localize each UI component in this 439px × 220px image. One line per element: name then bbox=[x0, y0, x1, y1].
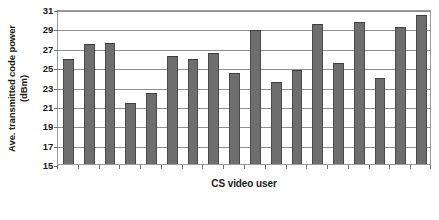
bar bbox=[354, 22, 365, 164]
x-axis-tick-mark bbox=[119, 165, 120, 169]
x-axis-tick-mark bbox=[223, 165, 224, 169]
y-axis-tick-label: 23 bbox=[43, 82, 53, 93]
bar bbox=[250, 30, 261, 164]
bar bbox=[292, 70, 303, 164]
bar bbox=[188, 59, 199, 164]
y-axis-tick-label: 27 bbox=[43, 43, 53, 54]
y-axis-tick-label: 19 bbox=[43, 121, 53, 132]
x-axis-tick-mark bbox=[348, 165, 349, 169]
bar bbox=[84, 44, 95, 164]
y-axis-tick-label: 21 bbox=[43, 101, 53, 112]
x-axis-tick-mark bbox=[140, 165, 141, 169]
x-axis-tick-mark bbox=[244, 165, 245, 169]
x-axis-tick-mark bbox=[430, 165, 431, 169]
x-axis-tick-marks bbox=[57, 165, 431, 170]
y-axis-title: Ave. transmitted code power (dBm) bbox=[0, 0, 34, 176]
y-axis-tick-label: 31 bbox=[43, 5, 53, 16]
bar bbox=[208, 53, 219, 164]
x-axis-tick-mark bbox=[265, 165, 266, 169]
x-axis-tick-mark bbox=[306, 165, 307, 169]
y-axis-tick-label: 29 bbox=[43, 24, 53, 35]
x-axis-tick-mark bbox=[410, 165, 411, 169]
bar bbox=[375, 78, 386, 164]
bar bbox=[167, 56, 178, 164]
bar bbox=[333, 63, 344, 164]
x-axis-title: CS video user bbox=[57, 178, 431, 189]
bar bbox=[312, 24, 323, 164]
x-axis-tick-mark bbox=[78, 165, 79, 169]
x-axis-tick-mark bbox=[369, 165, 370, 169]
x-axis-tick-mark bbox=[327, 165, 328, 169]
bar bbox=[63, 59, 74, 164]
x-axis-tick-mark bbox=[161, 165, 162, 169]
bar bbox=[271, 82, 282, 164]
y-axis-title-line1: Ave. transmitted code power bbox=[6, 25, 17, 152]
x-axis-tick-mark bbox=[202, 165, 203, 169]
x-axis-tick-mark bbox=[182, 165, 183, 169]
bar bbox=[416, 15, 427, 164]
x-axis-tick-mark bbox=[389, 165, 390, 169]
y-axis-tick-labels: 151719212325272931 bbox=[32, 10, 56, 165]
plot-area bbox=[57, 10, 431, 165]
x-axis-tick-mark bbox=[99, 165, 100, 169]
bar bbox=[125, 103, 136, 164]
bar bbox=[105, 43, 116, 164]
bar-chart-figure: Ave. transmitted code power (dBm) 151719… bbox=[0, 0, 439, 220]
y-axis-tick-label: 25 bbox=[43, 63, 53, 74]
y-axis-title-line2: (dBm) bbox=[17, 25, 29, 152]
bar bbox=[146, 93, 157, 164]
x-axis-tick-mark bbox=[57, 165, 58, 169]
x-axis-tick-mark bbox=[286, 165, 287, 169]
bar-series bbox=[58, 11, 430, 164]
bar bbox=[395, 27, 406, 164]
y-axis-tick-label: 17 bbox=[43, 140, 53, 151]
bar bbox=[229, 73, 240, 164]
y-axis-tick-label: 15 bbox=[43, 160, 53, 171]
